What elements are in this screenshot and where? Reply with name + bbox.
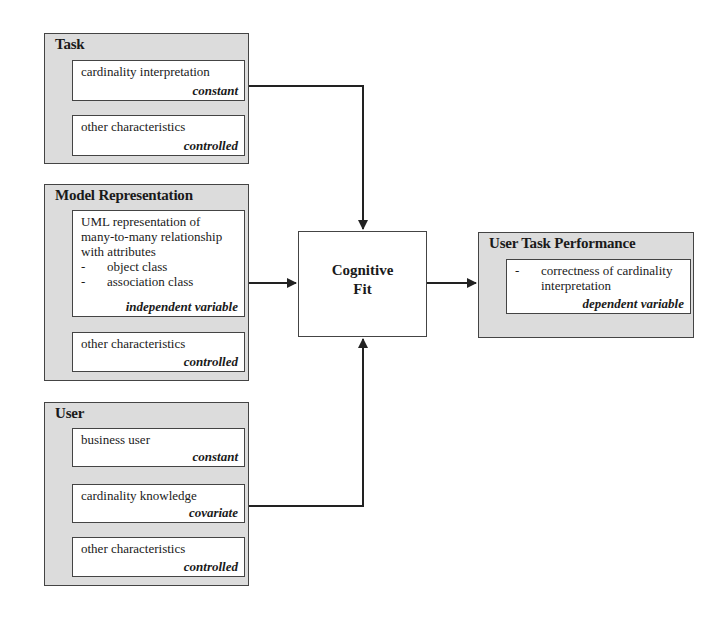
item-tag: controlled (184, 138, 238, 153)
cognitive-fit-line1: Cognitive (332, 261, 394, 280)
user-item-business-user: business user constant (72, 428, 245, 467)
bullet-text: object class (107, 259, 167, 274)
bullet-marker: - (81, 259, 107, 274)
task-group-title: Task (55, 36, 85, 53)
item-description: cardinality knowledge (81, 488, 237, 503)
item-tag: constant (192, 449, 238, 464)
item-description: other characteristics (81, 336, 237, 351)
item-tag: dependent variable (583, 296, 684, 311)
item-description: business user (81, 432, 237, 447)
task-item-cardinality-interpretation: cardinality interpretation constant (72, 60, 245, 101)
model-item-uml-representation: UML representation of many-to-many relat… (72, 210, 245, 317)
model-item-other-characteristics: other characteristics controlled (72, 332, 245, 372)
item-tag: covariate (189, 505, 238, 520)
user-item-other-characteristics: other characteristics controlled (72, 537, 245, 577)
cognitive-fit-line2: Fit (332, 280, 394, 299)
item-description: other characteristics (81, 119, 237, 134)
item-tag: constant (192, 83, 238, 98)
item-description-line: interpretation (541, 278, 672, 293)
performance-item-correctness: - correctness of cardinality interpretat… (506, 259, 691, 314)
bullet-marker: - (81, 274, 107, 289)
bullet-text: correctness of cardinality interpretatio… (541, 263, 672, 293)
bullet-correctness: - correctness of cardinality interpretat… (515, 263, 683, 293)
bullet-text: association class (107, 274, 193, 289)
user-item-cardinality-knowledge: cardinality knowledge covariate (72, 484, 245, 523)
task-item-other-characteristics: other characteristics controlled (72, 115, 245, 156)
arrow-task-to-fit (247, 86, 363, 229)
item-description-line: many-to-many relationship (81, 229, 237, 244)
bullet-marker: - (515, 263, 541, 293)
item-description-line: correctness of cardinality (541, 263, 672, 278)
bullet-object-class: - object class (81, 259, 237, 274)
item-tag: controlled (184, 354, 238, 369)
item-tag: independent variable (126, 299, 238, 314)
item-description-line: UML representation of (81, 214, 237, 229)
bullet-association-class: - association class (81, 274, 237, 289)
task-group: Task cardinality interpretation constant… (44, 33, 249, 164)
item-description: other characteristics (81, 541, 237, 556)
item-description-line: with attributes (81, 244, 237, 259)
arrow-user-to-fit (247, 339, 363, 506)
performance-group-title: User Task Performance (489, 235, 635, 252)
item-tag: controlled (184, 559, 238, 574)
user-task-performance-group: User Task Performance - correctness of c… (478, 232, 694, 338)
cognitive-fit-box: Cognitive Fit (298, 231, 427, 337)
item-description: cardinality interpretation (81, 64, 237, 79)
model-group-title: Model Representation (55, 187, 193, 204)
user-group-title: User (55, 405, 84, 422)
user-group: User business user constant cardinality … (44, 402, 249, 586)
model-representation-group: Model Representation UML representation … (44, 184, 249, 381)
